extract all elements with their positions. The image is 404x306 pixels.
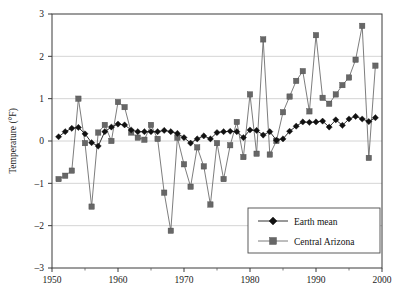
data-point-central-arizona bbox=[228, 143, 233, 148]
y-tick-label: –3 bbox=[34, 263, 45, 273]
legend-label-earth-mean: Earth mean bbox=[294, 217, 338, 227]
data-point-central-arizona bbox=[287, 94, 292, 99]
data-point-central-arizona bbox=[280, 110, 285, 115]
data-point-central-arizona bbox=[360, 23, 365, 28]
data-point-central-arizona bbox=[122, 104, 127, 109]
data-point-central-arizona bbox=[221, 176, 226, 181]
data-point-central-arizona bbox=[162, 190, 167, 195]
data-point-central-arizona bbox=[234, 119, 239, 124]
y-tick-label: 3 bbox=[39, 9, 44, 19]
data-point-central-arizona bbox=[142, 137, 147, 142]
data-point-central-arizona bbox=[168, 228, 173, 233]
x-axis-ticks bbox=[52, 268, 382, 272]
chart-legend: Earth mean Central Arizona bbox=[248, 208, 380, 253]
data-point-central-arizona bbox=[340, 82, 345, 87]
y-axis-ticks bbox=[48, 14, 52, 268]
data-point-central-arizona bbox=[188, 184, 193, 189]
y-tick-label: 0 bbox=[39, 136, 44, 146]
x-tick-label: 1970 bbox=[175, 275, 194, 285]
data-point-central-arizona bbox=[261, 37, 266, 42]
y-axis-title-text: Temperature (°F) bbox=[8, 108, 19, 174]
data-point-central-arizona bbox=[333, 92, 338, 97]
x-axis-tick-labels: 195019601970198019902000 bbox=[43, 275, 392, 285]
data-point-central-arizona bbox=[294, 78, 299, 83]
data-point-central-arizona bbox=[69, 168, 74, 173]
data-point-central-arizona bbox=[195, 145, 200, 150]
x-tick-label: 1960 bbox=[109, 275, 128, 285]
data-point-central-arizona bbox=[320, 95, 325, 100]
data-point-central-arizona bbox=[208, 202, 213, 207]
data-point-central-arizona bbox=[115, 99, 120, 104]
temperature-anomaly-line-chart: 195019601970198019902000 –3–2–10123 Temp… bbox=[0, 0, 404, 306]
legend-label-central-arizona: Central Arizona bbox=[294, 237, 355, 247]
y-tick-label: –2 bbox=[34, 221, 45, 231]
data-point-central-arizona bbox=[102, 122, 107, 127]
data-point-central-arizona bbox=[373, 63, 378, 68]
chart-figure: 195019601970198019902000 –3–2–10123 Temp… bbox=[0, 0, 404, 306]
data-point-central-arizona bbox=[313, 32, 318, 37]
data-point-central-arizona bbox=[89, 204, 94, 209]
data-point-central-arizona bbox=[96, 130, 101, 135]
data-point-central-arizona bbox=[247, 92, 252, 97]
data-point-central-arizona bbox=[109, 138, 114, 143]
legend-marker-square-icon bbox=[270, 238, 277, 245]
y-tick-label: –1 bbox=[34, 179, 45, 189]
data-point-central-arizona bbox=[267, 152, 272, 157]
data-point-central-arizona bbox=[155, 136, 160, 141]
data-point-central-arizona bbox=[307, 109, 312, 114]
x-tick-label: 1990 bbox=[307, 275, 326, 285]
data-point-central-arizona bbox=[82, 140, 87, 145]
data-point-central-arizona bbox=[300, 68, 305, 73]
y-axis-title: Temperature (°F) bbox=[8, 108, 19, 174]
y-tick-label: 1 bbox=[39, 94, 44, 104]
data-point-central-arizona bbox=[366, 155, 371, 160]
x-tick-label: 1980 bbox=[241, 275, 260, 285]
data-point-central-arizona bbox=[353, 57, 358, 62]
data-point-central-arizona bbox=[327, 101, 332, 106]
data-point-central-arizona bbox=[181, 162, 186, 167]
data-point-central-arizona bbox=[63, 173, 68, 178]
data-point-central-arizona bbox=[201, 164, 206, 169]
x-tick-label: 1950 bbox=[43, 275, 62, 285]
data-point-central-arizona bbox=[76, 96, 81, 101]
data-point-central-arizona bbox=[148, 122, 153, 127]
y-tick-label: 2 bbox=[39, 52, 44, 62]
data-point-central-arizona bbox=[56, 176, 61, 181]
data-point-central-arizona bbox=[135, 135, 140, 140]
data-point-central-arizona bbox=[241, 154, 246, 159]
y-axis-tick-labels: –3–2–10123 bbox=[34, 9, 45, 273]
data-point-central-arizona bbox=[214, 140, 219, 145]
data-point-central-arizona bbox=[254, 151, 259, 156]
x-tick-label: 2000 bbox=[373, 275, 392, 285]
data-point-central-arizona bbox=[346, 75, 351, 80]
